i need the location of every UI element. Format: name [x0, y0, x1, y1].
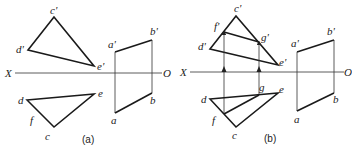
axis-label-x: X — [179, 66, 188, 78]
label-d-prime: d' — [198, 40, 207, 52]
label-b: b — [150, 94, 156, 106]
label-c: c — [45, 130, 50, 142]
label-f-prime: f' — [214, 20, 220, 32]
label-a-prime: a' — [108, 38, 117, 50]
label-c-prime: c' — [50, 4, 58, 16]
edge-a-b — [115, 93, 152, 113]
edge-a-b — [297, 93, 334, 111]
label-d-prime: d' — [16, 43, 25, 55]
label-e-prime: e' — [97, 60, 105, 72]
edge-a-prime-b-prime — [297, 40, 334, 52]
front-triangle — [28, 17, 94, 66]
label-a: a — [294, 113, 300, 125]
axis-label-o: O — [344, 66, 352, 78]
label-a: a — [111, 114, 117, 126]
panel-a: X O c' d' e' d e c f a' b' b a (a) — [4, 4, 171, 145]
axis-label-o: O — [163, 67, 171, 79]
label-b-prime: b' — [150, 25, 159, 37]
top-triangle — [210, 93, 278, 127]
label-b: b — [333, 93, 339, 105]
label-e: e — [98, 87, 103, 99]
label-g-prime: g' — [261, 31, 270, 43]
caption-b: (b) — [264, 133, 276, 144]
label-e-prime: e' — [279, 56, 287, 68]
panel-b: X O c' f' g' d' e' d g e f c a' b' b a (… — [179, 2, 352, 144]
label-f: f — [212, 114, 217, 126]
label-a-prime: a' — [291, 37, 300, 49]
label-c: c — [232, 129, 237, 141]
projection-diagram: X O c' d' e' d e c f a' b' b a (a) X O c… — [0, 0, 352, 152]
top-triangle — [27, 94, 94, 127]
caption-a: (a) — [82, 134, 94, 145]
arrowhead-f — [222, 66, 227, 72]
label-d: d — [201, 93, 207, 105]
label-f: f — [30, 114, 35, 126]
label-d: d — [18, 94, 24, 106]
label-b-prime: b' — [327, 25, 336, 37]
label-e: e — [279, 83, 284, 95]
axis-label-x: X — [4, 67, 13, 79]
label-c-prime: c' — [234, 2, 242, 14]
edge-a-prime-b-prime — [115, 40, 152, 52]
arrowhead-g — [257, 66, 262, 72]
label-g: g — [259, 81, 265, 93]
